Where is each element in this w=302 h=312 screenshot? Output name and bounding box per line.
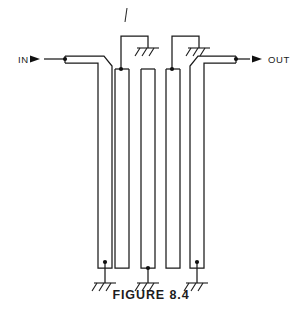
input-node-dot	[63, 57, 67, 61]
ground-symbol-top-1	[121, 36, 159, 69]
input-feed-line	[30, 56, 112, 263]
input-feed-lower-edge	[65, 63, 98, 262]
output-port-label: OUT	[268, 54, 290, 65]
resonator-finger-3	[135, 69, 159, 291]
finger-1-ground-node-dot	[103, 260, 107, 264]
stray-pen-mark	[125, 8, 127, 22]
figure-8-4-container: IN OUT FIGURE 8.4	[0, 0, 302, 312]
finger-3-trace	[141, 69, 155, 268]
input-arrow-icon	[30, 56, 40, 63]
finger-5-ground-node-dot	[195, 260, 199, 264]
finger-4-trace	[166, 69, 180, 268]
resonator-finger-4	[166, 67, 180, 268]
finger-4-ground-node-dot	[170, 67, 174, 71]
interdigital-filter-schematic: IN OUT	[0, 0, 302, 312]
finger-2-trace	[115, 69, 129, 268]
resonator-finger-5	[184, 260, 208, 291]
output-feed-upper-edge	[190, 56, 236, 262]
output-node-dot	[234, 57, 238, 61]
output-feed-line	[190, 56, 262, 263]
output-feed-lower-edge	[204, 63, 236, 262]
resonator-finger-2	[115, 67, 129, 268]
resonator-finger-1	[92, 260, 116, 291]
input-feed-upper-edge	[65, 56, 112, 262]
finger-2-ground-node-dot	[119, 67, 123, 71]
finger-3-ground-node-dot	[146, 266, 150, 270]
ground-top-2-glyph	[186, 48, 210, 56]
input-port-label: IN	[18, 54, 29, 65]
output-arrow-icon	[252, 56, 262, 63]
figure-caption: FIGURE 8.4	[0, 288, 302, 302]
ground-top-1-glyph	[135, 48, 159, 56]
